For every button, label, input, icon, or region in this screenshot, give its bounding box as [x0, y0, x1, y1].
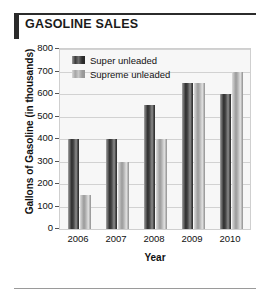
page-title: GASOLINE SALES	[25, 17, 138, 31]
y-axis-tick-label: 400	[19, 132, 53, 143]
y-axis-tick-label: 700	[19, 65, 53, 76]
legend-item-supreme: Supreme unleaded	[72, 68, 170, 80]
legend-item-super: Super unleaded	[72, 54, 170, 66]
legend-swatch-super	[72, 56, 85, 64]
y-axis-tick-label: 800	[19, 42, 53, 53]
x-axis-tick-label: 2008	[134, 233, 174, 244]
bar-2006-supreme	[80, 195, 91, 229]
bar-2010-supreme	[232, 72, 243, 230]
x-axis-tick-label: 2010	[210, 233, 250, 244]
footer-rule	[14, 288, 256, 289]
header-accent-bar	[14, 13, 19, 39]
legend-label-super: Super unleaded	[90, 55, 157, 66]
x-axis-tick-label: 2009	[172, 233, 212, 244]
legend-swatch-supreme	[72, 70, 85, 78]
chart-header: GASOLINE SALES	[0, 0, 263, 40]
x-axis-tick-label: 2007	[96, 233, 136, 244]
y-axis-tick-label: 200	[19, 177, 53, 188]
x-axis-tick-label: 2006	[58, 233, 98, 244]
bar-2007-super	[106, 139, 117, 229]
bar-2009-super	[182, 83, 193, 229]
y-axis-tick-label: 500	[19, 110, 53, 121]
bar-2008-super	[144, 105, 155, 229]
y-axis-tick-label: 600	[19, 87, 53, 98]
bar-2008-supreme	[156, 139, 167, 229]
bar-2010-super	[220, 94, 231, 229]
legend-label-supreme: Supreme unleaded	[90, 69, 170, 80]
y-axis-tick-label: 100	[19, 200, 53, 211]
y-axis-tick-label: 0	[19, 222, 53, 233]
chart-container: Gallons of Gasoline (in thousands) 01002…	[0, 40, 263, 272]
bar-2006-super	[68, 139, 79, 229]
y-axis-tick-label: 300	[19, 155, 53, 166]
x-axis-label: Year	[59, 252, 251, 263]
header-top-rule	[14, 13, 256, 15]
bar-2007-supreme	[118, 162, 129, 230]
bar-2009-supreme	[194, 83, 205, 229]
chart-legend: Super unleaded Supreme unleaded	[72, 54, 170, 82]
